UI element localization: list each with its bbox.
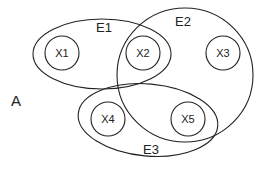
vertex-label-x2: X2 [136, 47, 149, 59]
hypergraph-diagram: X1 X2 X3 X4 X5 E1 E2 E3 A [0, 0, 269, 176]
hyperedge-label-e2: E2 [175, 14, 191, 29]
hyperedge-label-e3: E3 [143, 142, 159, 157]
vertex-label-x4: X4 [101, 113, 114, 125]
vertex-label-x3: X3 [216, 47, 229, 59]
vertex-label-x1: X1 [55, 47, 68, 59]
diagram-canvas: X1 X2 X3 X4 X5 E1 E2 E3 A [0, 0, 269, 176]
set-label-a: A [11, 92, 21, 109]
hyperedge-label-e1: E1 [96, 20, 112, 35]
vertex-label-x5: X5 [181, 113, 194, 125]
